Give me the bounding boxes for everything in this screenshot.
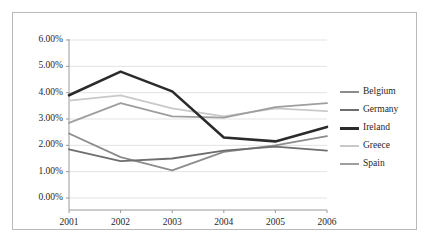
x-axis-tick-label: 2002	[99, 218, 143, 228]
x-axis-tick-label: 2003	[150, 218, 194, 228]
legend-item-spain[interactable]: Spain	[340, 155, 418, 173]
chart-legend: BelgiumGermanyIrelandGreeceSpain	[340, 83, 418, 173]
y-axis-tick-label: 2.00%	[17, 140, 63, 150]
legend-item-label: Ireland	[363, 123, 390, 133]
legend-color-swatch	[340, 145, 359, 147]
x-axis-tick-label: 2004	[202, 218, 246, 228]
legend-item-label: Greece	[363, 141, 390, 151]
legend-item-germany[interactable]: Germany	[340, 101, 418, 119]
legend-item-ireland[interactable]: Ireland	[340, 119, 418, 137]
y-axis-tick-label: 0.00%	[17, 193, 63, 203]
legend-color-swatch	[340, 163, 359, 165]
y-axis-tick-label: 1.00%	[17, 167, 63, 177]
x-axis-tick-label: 2006	[305, 218, 349, 228]
legend-item-label: Germany	[363, 105, 398, 115]
legend-item-belgium[interactable]: Belgium	[340, 83, 418, 101]
y-axis-tick-label: 3.00%	[17, 114, 63, 124]
y-axis-tick-label: 5.00%	[17, 61, 63, 71]
y-axis-tick-label: 6.00%	[17, 35, 63, 45]
series-line-germany	[69, 147, 327, 161]
legend-item-label: Belgium	[363, 87, 396, 97]
y-axis-tick-label: 4.00%	[17, 88, 63, 98]
legend-color-swatch	[340, 109, 359, 111]
x-axis-tick-label: 2005	[253, 218, 297, 228]
legend-color-swatch	[340, 127, 359, 130]
chart-plot-region: 6.00%5.00%4.00%3.00%2.00%1.00%0.00% 2001…	[13, 13, 416, 229]
legend-item-greece[interactable]: Greece	[340, 137, 418, 155]
x-axis-tick-label: 2001	[47, 218, 91, 228]
chart-container: 6.00%5.00%4.00%3.00%2.00%1.00%0.00% 2001…	[12, 12, 417, 230]
legend-color-swatch	[340, 91, 359, 93]
legend-item-label: Spain	[363, 159, 385, 169]
